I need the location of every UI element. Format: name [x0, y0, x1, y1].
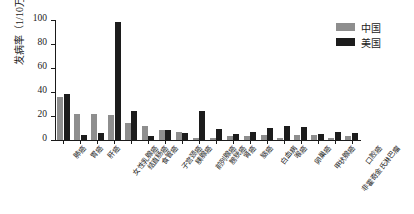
- x-tick-mark: [165, 140, 166, 144]
- bar-group: [276, 20, 293, 140]
- bar-china: [74, 114, 80, 140]
- bar-usa: [250, 132, 256, 140]
- x-axis-label: 脑癌: [260, 145, 274, 160]
- legend-swatch: [336, 23, 355, 31]
- bar-group: [209, 20, 226, 140]
- x-axis-line: [55, 140, 361, 141]
- bar-group: [107, 20, 124, 140]
- x-tick-mark: [131, 140, 132, 144]
- bar-group: [141, 20, 158, 140]
- bar-group: [90, 20, 107, 140]
- bar-china: [328, 138, 334, 140]
- bar-usa: [233, 134, 239, 140]
- x-axis-label: 肝癌: [108, 145, 122, 160]
- bar-china: [142, 126, 148, 140]
- x-tick-mark: [199, 140, 200, 144]
- x-tick-mark: [182, 140, 183, 144]
- bar-usa: [352, 133, 358, 140]
- x-tick-mark: [216, 140, 217, 144]
- bar-usa: [284, 126, 290, 140]
- y-tick-label: 100: [8, 13, 54, 23]
- y-tick-label: 60: [8, 61, 54, 71]
- bar-china: [227, 136, 233, 140]
- bar-china: [294, 135, 300, 140]
- bar-usa: [98, 133, 104, 140]
- bar-usa: [148, 136, 154, 140]
- x-tick-mark: [335, 140, 336, 144]
- bar-china: [176, 132, 182, 140]
- plot-area: 020406080100: [55, 20, 360, 140]
- bar-usa: [199, 111, 205, 140]
- bar-china: [311, 135, 317, 140]
- bar-usa: [182, 133, 188, 140]
- bar-group: [192, 20, 209, 140]
- bar-china: [91, 114, 97, 140]
- bar-china: [244, 136, 250, 140]
- legend-item: 美国: [336, 35, 410, 49]
- bar-group: [73, 20, 90, 140]
- x-tick-mark: [233, 140, 234, 144]
- bar-group: [158, 20, 175, 140]
- bar-china: [125, 123, 131, 140]
- bar-china: [345, 136, 351, 140]
- bar-china: [193, 138, 199, 140]
- bar-group: [310, 20, 327, 140]
- y-tick-label: 40: [8, 85, 54, 95]
- bar-group: [226, 20, 243, 140]
- legend-item: 中国: [336, 20, 410, 34]
- bar-usa: [115, 22, 121, 140]
- x-tick-mark: [63, 140, 64, 144]
- x-axis-label: 甲状腺癌: [333, 145, 356, 171]
- bar-china: [210, 138, 216, 140]
- bar-usa: [64, 94, 70, 140]
- bar-china: [277, 138, 283, 140]
- x-axis-label: 肺癌: [74, 145, 88, 160]
- x-tick-mark: [148, 140, 149, 144]
- chart-figure: 发病率（1/10万） 020406080100 肺癌胃癌肝癌女性乳腺癌结直肠癌食…: [0, 0, 414, 214]
- bar-china: [159, 130, 165, 140]
- bar-china: [108, 115, 114, 140]
- legend-label: 中国: [361, 20, 381, 35]
- bar-group: [293, 20, 310, 140]
- bar-group: [175, 20, 192, 140]
- bar-usa: [335, 132, 341, 140]
- bar-usa: [165, 130, 171, 140]
- bar-group: [124, 20, 141, 140]
- bar-usa: [301, 127, 307, 140]
- x-axis-label: 卵巢癌: [314, 145, 333, 166]
- y-tick-label: 20: [8, 109, 54, 119]
- bar-group: [56, 20, 73, 140]
- bar-group: [243, 20, 260, 140]
- y-tick-label: 0: [8, 133, 54, 143]
- bar-group: [260, 20, 277, 140]
- bar-usa: [267, 128, 273, 140]
- bar-usa: [216, 129, 222, 140]
- bar-china: [261, 135, 267, 140]
- legend-label: 美国: [361, 35, 381, 50]
- bar-china: [57, 97, 63, 140]
- bar-series-container: [55, 20, 360, 140]
- x-tick-mark: [318, 140, 319, 144]
- bar-usa: [318, 134, 324, 140]
- y-tick-label: 80: [8, 37, 54, 47]
- x-tick-mark: [352, 140, 353, 144]
- x-axis-label: 胃癌: [91, 145, 105, 160]
- bar-usa: [81, 135, 87, 140]
- bar-usa: [131, 111, 137, 140]
- chart-legend: 中国美国: [336, 20, 410, 50]
- x-tick-mark: [284, 140, 285, 144]
- legend-swatch: [336, 38, 355, 46]
